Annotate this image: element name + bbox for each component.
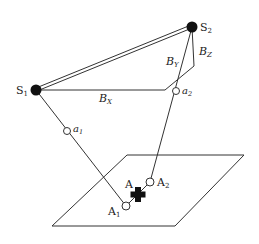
label-s1: S1 (16, 84, 28, 98)
ray-s2-a2 (150, 27, 192, 182)
label-a1-image: a1 (73, 123, 83, 136)
image-point-a1 (64, 128, 71, 135)
label-bz: BZ (198, 45, 212, 59)
ray-s1-a1 (36, 90, 126, 206)
ground-point-a2 (146, 178, 154, 186)
label-by: BY (165, 55, 180, 69)
label-A2-ground: A2 (156, 176, 169, 190)
label-bx: BX (98, 92, 113, 106)
label-a2-image: a2 (182, 85, 192, 98)
stereo-geometry-diagram: S1 S2 BX BY BZ a1 a2 A1 A2 A (0, 0, 259, 244)
image-point-a2 (173, 88, 180, 95)
source-point-s2 (187, 22, 198, 33)
source-point-s1 (31, 85, 42, 96)
ground-point-a1 (122, 202, 130, 210)
label-A1-ground: A1 (107, 205, 120, 219)
ground-plane (52, 155, 244, 226)
label-target-A: A (124, 178, 134, 191)
label-s2: S2 (200, 21, 212, 35)
